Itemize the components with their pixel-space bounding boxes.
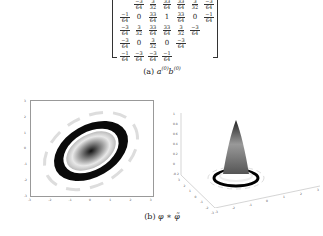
coefficient-matrix: −36433233643364332−364−16403364133640−16… xyxy=(112,0,218,58)
z-tick: -0.2 xyxy=(173,172,179,176)
matrix-cell: 3364 xyxy=(174,0,188,11)
caption-b-math: φ ∗ φ̃ xyxy=(158,212,180,221)
heatmap-plot xyxy=(30,100,154,197)
matrix-cell: −364 xyxy=(202,0,216,11)
x-tick: 1 xyxy=(283,195,285,199)
y-tick: 3 xyxy=(178,178,180,182)
y-tick: 0 xyxy=(195,195,197,199)
x-tick: 3 xyxy=(317,188,319,192)
matrix-cell: −164 xyxy=(118,11,132,24)
z-tick: 0 xyxy=(173,162,175,166)
matrix-cell: −364 xyxy=(132,50,146,63)
z-tick: 0.2 xyxy=(173,152,178,156)
y-tick: -1 xyxy=(200,200,203,204)
y-tick: 1 xyxy=(24,131,26,135)
x-tick: -1 xyxy=(69,198,72,202)
matrix-cell: 3364 xyxy=(174,11,188,24)
matrix-cell: −364 xyxy=(118,24,132,37)
x-tick: 0 xyxy=(89,198,91,202)
x-tick: 2 xyxy=(130,198,132,202)
caption-a-math: a(0)b(0) xyxy=(157,67,181,76)
matrix-cell: −164 xyxy=(118,50,132,63)
caption-b: (b) φ ∗ φ̃ xyxy=(112,212,212,221)
matrix-cell: 0 xyxy=(132,37,146,50)
y-tick: -2 xyxy=(206,206,209,210)
matrix-cell: −364 xyxy=(174,37,188,50)
matrix-cell: −364 xyxy=(146,50,160,63)
matrix-row: −36433233643364332−364 xyxy=(132,0,216,11)
y-tick: 2 xyxy=(24,115,26,119)
matrix-row: −164−364−364−164 xyxy=(118,50,174,63)
z-tick: 0.4 xyxy=(173,142,178,146)
matrix-cell: 332 xyxy=(188,0,202,11)
caption-a-label: (a) xyxy=(143,67,154,76)
matrix-cell: 3364 xyxy=(160,24,174,37)
matrix-cell: 3364 xyxy=(160,0,174,11)
y-tick: -3 xyxy=(24,194,27,198)
caption-a: (a) a(0)b(0) xyxy=(112,65,212,76)
x-tick: 0 xyxy=(266,199,268,203)
z-tick: 0.6 xyxy=(173,132,178,136)
z-tick: 0.8 xyxy=(173,122,178,126)
matrix-cell: −164 xyxy=(160,50,174,63)
x-tick: 2 xyxy=(300,192,302,196)
x-tick: -3 xyxy=(28,198,31,202)
x-tick: -2 xyxy=(232,206,235,210)
matrix-cell: 0 xyxy=(188,11,202,24)
y-tick: 2 xyxy=(184,184,186,188)
y-tick: 0 xyxy=(24,146,26,150)
matrix-row: −16403364133640−164 xyxy=(118,11,216,24)
matrix-cell: 3364 xyxy=(146,11,160,24)
matrix-cell: 1 xyxy=(160,11,174,24)
matrix-cell: 332 xyxy=(132,24,146,37)
matrix-cell: −364 xyxy=(132,0,146,11)
x-tick: 3 xyxy=(150,198,152,202)
matrix-left-bracket xyxy=(112,0,117,58)
matrix-cell: 332 xyxy=(174,24,188,37)
matrix-cell: 0 xyxy=(132,11,146,24)
matrix-cell: −364 xyxy=(188,24,202,37)
matrix-cell: 332 xyxy=(146,0,160,11)
y-tick: 1 xyxy=(189,189,191,193)
matrix-cell: −364 xyxy=(118,37,132,50)
y-tick: -2 xyxy=(24,178,27,182)
z-tick: 1 xyxy=(173,112,175,116)
matrix-row: −36433233643364332−364 xyxy=(118,24,202,37)
matrix-cell: 332 xyxy=(146,37,160,50)
y-tick: 3 xyxy=(24,99,26,103)
x-tick: -2 xyxy=(48,198,51,202)
matrix-cell: 3364 xyxy=(146,24,160,37)
y-tick: -1 xyxy=(24,162,27,166)
matrix-cell: −164 xyxy=(202,11,216,24)
x-tick: 1 xyxy=(109,198,111,202)
x-tick: -1 xyxy=(249,203,252,207)
x-tick: -3 xyxy=(215,210,218,214)
matrix-row: −36403320−364 xyxy=(118,37,188,50)
heatmap-svg xyxy=(31,101,153,196)
caption-b-label: (b) xyxy=(144,212,155,221)
matrix-cell: 0 xyxy=(160,37,174,50)
